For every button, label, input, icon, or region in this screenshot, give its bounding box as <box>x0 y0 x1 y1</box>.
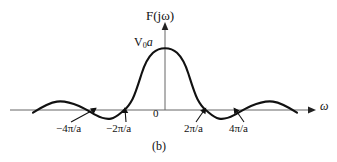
y-axis-label: F(jω) <box>146 9 174 22</box>
x-axis-label: ω <box>320 100 328 112</box>
origin-label: 0 <box>153 108 159 119</box>
y-axis <box>162 22 169 110</box>
sinc-plot <box>0 0 337 162</box>
x-axis <box>10 107 316 114</box>
tick-label-minus-4pi-over-a: −4π/a <box>56 123 81 134</box>
tick-label-2pi-over-a: 2π/a <box>184 123 203 134</box>
peak-label-v: V <box>134 35 143 49</box>
peak-value-label: V0a <box>134 36 153 50</box>
tick-label-minus-2pi-over-a: −2π/a <box>106 123 131 134</box>
tick-label-4pi-over-a: 4π/a <box>229 123 248 134</box>
figure-container: F(jω) V0a 0 ω −4π/a −2π/a 2π/a 4π/a (b) <box>0 0 337 162</box>
figure-caption: (b) <box>152 140 166 152</box>
peak-label-a: a <box>147 35 153 49</box>
